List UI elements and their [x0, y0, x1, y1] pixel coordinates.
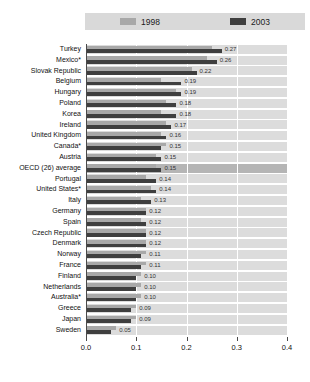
- value-label: 0.12: [149, 217, 161, 228]
- bar-2003: [86, 222, 146, 226]
- row-plot: 0.19: [86, 76, 287, 87]
- bar-2003: [86, 49, 222, 53]
- gridline: [237, 44, 238, 336]
- value-label: 0.13: [154, 195, 166, 206]
- chart-row: Slovak Republic0.22: [0, 66, 310, 77]
- chart-row: Italy0.13: [0, 195, 310, 206]
- chart-row: Korea0.18: [0, 109, 310, 120]
- chart-row: Belgium0.19: [0, 76, 310, 87]
- bar-2003: [86, 244, 146, 248]
- axis-tick-label: 0.0: [74, 343, 98, 352]
- bar-2003: [86, 125, 171, 129]
- category-label: Slovak Republic: [0, 66, 81, 77]
- category-label: Greece: [0, 303, 81, 314]
- chart-row: Poland0.18: [0, 98, 310, 109]
- legend-swatch-1998: [120, 18, 136, 25]
- category-label: Netherlands: [0, 282, 81, 293]
- bar-2003: [86, 298, 136, 302]
- chart-row: Netherlands0.10: [0, 282, 310, 293]
- bar-2003: [86, 254, 141, 258]
- category-label: OECD (26) average: [0, 163, 81, 174]
- value-label: 0.10: [144, 271, 156, 282]
- category-label: Australia*: [0, 292, 81, 303]
- category-label: France: [0, 260, 81, 271]
- value-label: 0.12: [149, 238, 161, 249]
- chart-row: OECD (26) average0.15: [0, 163, 310, 174]
- chart-row: Hungary0.19: [0, 87, 310, 98]
- axis-tick-label: 0.3: [225, 343, 249, 352]
- value-label: 0.09: [139, 303, 151, 314]
- axis-baseline: [86, 44, 87, 340]
- value-label: 0.15: [164, 152, 176, 163]
- value-label: 0.19: [184, 76, 196, 87]
- chart-row: Czech Republic0.12: [0, 228, 310, 239]
- legend-item-1998: 1998: [120, 17, 160, 27]
- value-label: 0.09: [139, 314, 151, 325]
- chart-legend: 1998 2003: [85, 13, 305, 30]
- axis-tick: [187, 337, 188, 341]
- chart-row: United Kingdom0.16: [0, 130, 310, 141]
- bar-2003: [86, 287, 136, 291]
- x-axis: 0.00.10.20.30.4: [0, 336, 310, 358]
- bar-chart-plot-area: Turkey0.27Mexico*0.26Slovak Republic0.22…: [0, 44, 310, 336]
- chart-row: United States*0.14: [0, 184, 310, 195]
- bar-2003: [86, 265, 141, 269]
- legend-item-2003: 2003: [230, 17, 270, 27]
- category-label: Czech Republic: [0, 228, 81, 239]
- bar-2003: [86, 200, 151, 204]
- category-label: Germany: [0, 206, 81, 217]
- chart-row: Canada*0.15: [0, 141, 310, 152]
- value-label: 0.16: [169, 130, 181, 141]
- category-label: United States*: [0, 184, 81, 195]
- value-label: 0.12: [149, 228, 161, 239]
- value-label: 0.17: [174, 120, 186, 131]
- bar-2003: [86, 319, 131, 323]
- chart-row: Japan0.09: [0, 314, 310, 325]
- bar-2003: [86, 71, 197, 75]
- bar-2003: [86, 136, 166, 140]
- chart-row: Finland0.10: [0, 271, 310, 282]
- bar-2003: [86, 308, 131, 312]
- value-label: 0.15: [164, 163, 176, 174]
- value-label: 0.12: [149, 206, 161, 217]
- category-label: Japan: [0, 314, 81, 325]
- row-plot: 0.18: [86, 109, 287, 120]
- category-label: Spain: [0, 217, 81, 228]
- value-label: 0.11: [149, 249, 160, 260]
- axis-tick: [287, 337, 288, 341]
- value-label: 0.18: [179, 109, 191, 120]
- category-label: United Kingdom: [0, 130, 81, 141]
- value-label: 0.22: [200, 66, 212, 77]
- chart-row: Mexico*0.26: [0, 55, 310, 66]
- chart-row: France0.11: [0, 260, 310, 271]
- chart-row: Portugal0.14: [0, 174, 310, 185]
- row-plot: 0.19: [86, 87, 287, 98]
- category-label: Poland: [0, 98, 81, 109]
- value-label: 0.11: [149, 260, 160, 271]
- category-label: Denmark: [0, 238, 81, 249]
- chart-row: Australia*0.10: [0, 292, 310, 303]
- value-label: 0.15: [169, 141, 181, 152]
- bar-2003: [86, 60, 217, 64]
- category-label: Korea: [0, 109, 81, 120]
- category-label: Sweden: [0, 325, 81, 336]
- value-label: 0.26: [220, 55, 232, 66]
- value-label: 0.14: [159, 184, 171, 195]
- bar-2003: [86, 157, 161, 161]
- bar-2003: [86, 103, 176, 107]
- value-label: 0.14: [159, 174, 171, 185]
- chart-row: Germany0.12: [0, 206, 310, 217]
- value-label: 0.19: [184, 87, 196, 98]
- value-label: 0.10: [144, 292, 156, 303]
- value-label: 0.10: [144, 282, 156, 293]
- value-label: 0.05: [119, 325, 131, 336]
- category-label: Norway: [0, 249, 81, 260]
- chart-row: Turkey0.27: [0, 44, 310, 55]
- category-label: Austria: [0, 152, 81, 163]
- bar-2003: [86, 92, 181, 96]
- category-label: Portugal: [0, 174, 81, 185]
- bar-2003: [86, 114, 176, 118]
- axis-tick-label: 0.2: [175, 343, 199, 352]
- bar-2003: [86, 190, 156, 194]
- category-label: Italy: [0, 195, 81, 206]
